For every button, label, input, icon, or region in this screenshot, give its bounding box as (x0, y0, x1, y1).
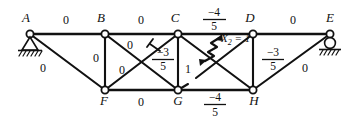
force-label-CF: 0 (119, 63, 125, 77)
joint-label-C: C (171, 10, 180, 25)
joint-label-A: A (21, 10, 30, 25)
truss-diagram-figure: A B C D E F G H 0 0 0 0 0 0 0 1 0 0 −4 5 (0, 0, 357, 124)
joint-D (249, 30, 256, 37)
force-label-AF: 0 (40, 61, 46, 75)
force-label-BG-cut: −3 5 (152, 46, 174, 72)
force-label-CG: 1 (185, 62, 191, 76)
force-label-AB: 0 (63, 13, 69, 27)
redundant-force-label: X2 = 1 (220, 32, 250, 47)
force-label-BF: 0 (93, 51, 99, 65)
force-label-DE: 0 (290, 13, 296, 27)
svg-text:X2 = 1: X2 = 1 (220, 32, 250, 47)
force-label-GH-numerator: −4 (209, 91, 221, 103)
force-label-GH: −4 5 (204, 91, 226, 118)
joint-C (174, 30, 181, 37)
force-label-BG-cut-numerator: −3 (157, 46, 169, 58)
redundant-label-suffix: = 1 (232, 32, 250, 44)
joint-B (101, 30, 108, 37)
force-label-DH-numerator: −3 (267, 46, 279, 58)
force-label-BG: 0 (127, 38, 133, 52)
roller-wheel (325, 38, 336, 49)
force-label-BG-cut-denominator: 5 (160, 60, 166, 72)
truss-members (30, 34, 330, 90)
joint-label-B: B (97, 10, 105, 25)
force-label-CD-denominator: 5 (211, 20, 217, 32)
joint-label-F: F (99, 93, 109, 108)
truss-canvas: A B C D E F G H 0 0 0 0 0 0 0 1 0 0 −4 5 (0, 0, 357, 124)
redundant-arrow-lower (199, 59, 207, 66)
joint-label-E: E (325, 10, 334, 25)
force-label-CD: −4 5 (203, 6, 226, 32)
force-label-HE: 0 (302, 61, 308, 75)
member-HE (253, 34, 330, 90)
pin-support-hatching (19, 51, 42, 56)
joint-label-D: D (244, 10, 255, 25)
force-label-GH-denominator: 5 (212, 106, 218, 118)
force-label-DH: −3 5 (262, 46, 284, 72)
force-label-DH-denominator: 5 (270, 60, 276, 72)
joint-E (326, 30, 333, 37)
force-label-FG: 0 (138, 95, 144, 109)
force-label-BC: 0 (138, 13, 144, 27)
joint-label-G: G (173, 93, 183, 108)
force-label-CD-numerator: −4 (208, 6, 220, 18)
truss-joints (26, 30, 333, 93)
joint-label-H: H (248, 93, 259, 108)
roller-support-hatching (320, 50, 339, 55)
